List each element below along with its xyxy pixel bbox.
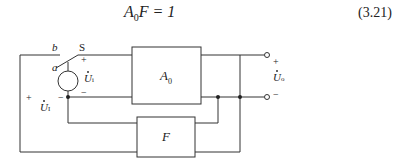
input-voltage-symbol: U	[40, 102, 48, 113]
circuit-diagram	[0, 0, 415, 168]
junction-node-1	[216, 95, 220, 99]
source-voltage-symbol: U	[84, 73, 92, 84]
source-plus-sign: +	[81, 55, 87, 65]
input-minus-sign: −	[58, 93, 64, 103]
feedback-block-label: F	[162, 130, 170, 143]
input-plus-sign: +	[26, 93, 32, 103]
source-minus-sign: −	[81, 88, 87, 98]
voltage-source-icon	[58, 71, 78, 91]
wire-left-loop	[20, 55, 137, 152]
wire-f-to-node1	[195, 97, 218, 123]
output-voltage-sub: o	[281, 75, 285, 83]
input-voltage-label: UI	[40, 102, 50, 113]
source-voltage-label: Ui	[84, 73, 94, 84]
output-minus-sign: −	[273, 90, 279, 100]
output-voltage-symbol: U	[273, 72, 281, 83]
amplifier-sub: 0	[168, 77, 172, 86]
output-voltage-label: Uo	[273, 72, 284, 83]
switch-label: S	[79, 42, 85, 53]
switch-position-b: b	[52, 42, 58, 53]
switch-position-a: a	[52, 62, 58, 73]
output-terminal-plus	[265, 53, 270, 58]
switch-blade	[56, 55, 78, 68]
amplifier-block-label: A0	[160, 69, 172, 86]
junction-node-2	[238, 95, 242, 99]
amplifier-symbol: A	[160, 68, 168, 83]
output-terminal-minus	[265, 95, 270, 100]
input-voltage-sub: I	[48, 105, 50, 113]
junction-node-source	[66, 95, 70, 99]
source-voltage-sub: i	[92, 76, 94, 84]
output-plus-sign: +	[273, 57, 279, 67]
